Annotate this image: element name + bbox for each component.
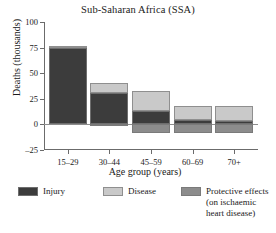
legend-swatch-protective (181, 187, 201, 196)
bar-segment-protective[interactable] (132, 124, 170, 132)
bar-group[interactable] (132, 22, 170, 150)
y-tick-label: 0 (34, 120, 38, 129)
bar-segment-disease[interactable] (49, 46, 87, 48)
legend-label-protective-line1: Protective effects (206, 186, 269, 196)
legend-label-disease: Disease (128, 186, 156, 197)
y-tick-label: –25 (25, 146, 38, 155)
x-tick (109, 150, 110, 154)
x-axis-label: Age group (years) (30, 166, 260, 177)
x-tick (234, 150, 235, 154)
legend-label-protective-line3: heart disease) (206, 208, 255, 218)
bar-segment-injury[interactable] (90, 93, 128, 125)
legend-label-protective: Protective effects (on ischaemic heart d… (206, 186, 269, 219)
y-tick (40, 99, 44, 100)
legend-swatch-disease (103, 187, 123, 196)
plot-area: –250255075100 15–2930–4445–5960–6970+ (44, 22, 252, 150)
x-tick (151, 150, 152, 154)
bar-segment-disease[interactable] (215, 106, 253, 121)
bar-segment-injury[interactable] (49, 48, 87, 125)
bar-segment-protective[interactable] (174, 124, 212, 132)
y-tick-label: 50 (30, 69, 39, 78)
y-tick (40, 22, 44, 23)
bar-segment-disease[interactable] (90, 83, 128, 92)
y-tick-label: 75 (30, 43, 39, 52)
legend-item-disease: Disease (103, 186, 156, 197)
y-tick (40, 124, 44, 125)
y-axis-line (44, 22, 45, 150)
bar-segment-disease[interactable] (174, 106, 212, 120)
chart-title: Sub-Saharan Africa (SSA) (0, 4, 276, 15)
bar-group[interactable] (90, 22, 128, 150)
chart-figure: Sub-Saharan Africa (SSA) Deaths (thousan… (0, 0, 276, 233)
legend-item-injury: Injury (18, 186, 65, 197)
y-tick (40, 73, 44, 74)
x-tick (68, 150, 69, 154)
bar-segment-protective[interactable] (215, 124, 253, 132)
legend-label-injury: Injury (43, 186, 65, 197)
bar-group[interactable] (174, 22, 212, 150)
bar-segment-disease[interactable] (132, 91, 170, 111)
legend-label-protective-line2: (on ischaemic (206, 197, 256, 207)
bar-segment-injury[interactable] (132, 111, 170, 124)
legend-item-protective: Protective effects (on ischaemic heart d… (181, 186, 269, 219)
legend-swatch-injury (18, 187, 38, 196)
bar-segment-protective[interactable] (90, 124, 128, 126)
y-axis-label: Deaths (thousands) (11, 0, 22, 118)
y-tick (40, 48, 44, 49)
y-tick-label: 25 (30, 95, 39, 104)
bar-group[interactable] (49, 22, 87, 150)
y-tick (40, 150, 44, 151)
x-tick (193, 150, 194, 154)
bar-group[interactable] (215, 22, 253, 150)
y-tick-label: 100 (25, 18, 38, 27)
